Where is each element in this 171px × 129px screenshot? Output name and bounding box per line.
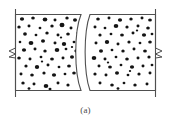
right-block <box>85 15 155 91</box>
figure-container: (a) <box>0 0 171 129</box>
left-block-outline <box>16 15 82 91</box>
figure-caption: (a) <box>0 104 171 116</box>
left-block <box>16 15 82 91</box>
